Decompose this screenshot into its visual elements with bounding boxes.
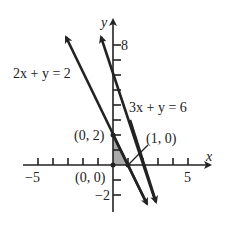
tick-label-8: 8: [121, 38, 128, 53]
tick-label-neg2: −2: [95, 188, 110, 203]
x-axis-label: x: [205, 149, 213, 164]
point-0-0: [111, 163, 116, 168]
tick-label-neg5: −5: [25, 170, 40, 185]
graph: 2x + y = 2 3x + y = 6 (0, 2) (1, 0) (0, …: [0, 0, 227, 225]
y-axis-label: y: [99, 15, 108, 30]
label-point-0-0: (0, 0): [75, 170, 106, 186]
label-point-1-0: (1, 0): [146, 131, 177, 147]
tick-label-5: 5: [184, 170, 191, 185]
line-2x-plus-y-eq-2-lower-arrow: [113, 135, 147, 204]
label-line-2x-plus-y-eq-2: 2x + y = 2: [13, 66, 71, 81]
label-line-3x-plus-y-eq-6: 3x + y = 6: [129, 100, 187, 115]
point-0-2: [111, 133, 116, 138]
y-ticks: [113, 45, 121, 195]
label-point-0-2: (0, 2): [74, 128, 105, 144]
